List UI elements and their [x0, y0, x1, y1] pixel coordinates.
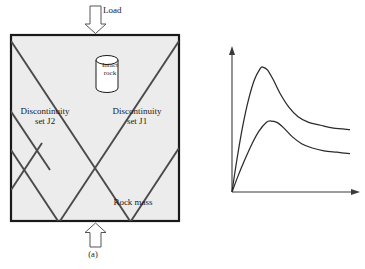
curve-rock-mass — [232, 121, 350, 192]
rock-mass-block — [11, 35, 179, 221]
load-arrow-bottom-icon — [85, 223, 106, 247]
discontinuity-set-j1-label: Discontinuityset J1 — [98, 106, 176, 126]
discontinuity-set-j1-label-line2: set J1 — [127, 116, 147, 126]
y-axis — [229, 46, 235, 192]
panel-a-caption: (a) — [78, 250, 108, 260]
discontinuity-set-j2-label-line1: Discontinuity — [21, 106, 70, 116]
intact-rock-specimen-label-line2: rock — [104, 69, 116, 77]
discontinuity-set-j2-label: Discontinuityset J2 — [7, 106, 83, 126]
panel-a-graphic — [0, 0, 190, 269]
curve-intact-rock — [232, 67, 350, 192]
panel-b-stress-strain-chart: Axialstress Axial strain Intact rock Roc… — [188, 0, 365, 269]
stress-strain-plot — [188, 0, 365, 269]
intact-rock-specimen-label-line1: Intact — [102, 61, 118, 69]
discontinuity-set-j2-label-line2: set J2 — [35, 116, 55, 126]
figure-root: Load Intactrock Discontinuityset J2 Disc… — [0, 0, 365, 269]
rock-mass-label: Rock mass — [101, 197, 165, 207]
intact-rock-specimen-label: Intactrock — [97, 61, 123, 77]
load-label: Load — [103, 5, 149, 15]
discontinuity-set-j1-label-line1: Discontinuity — [113, 106, 162, 116]
x-axis — [232, 189, 360, 195]
panel-a-rock-mass-diagram: Load Intactrock Discontinuityset J2 Disc… — [0, 0, 190, 269]
